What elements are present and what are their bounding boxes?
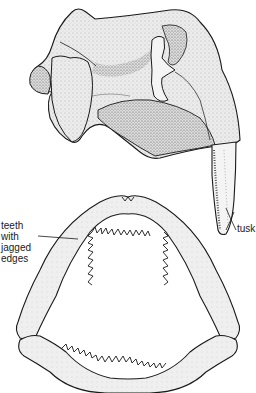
- diagram-canvas: teeth with jagged edges tusk: [0, 0, 256, 393]
- skull-group: [30, 9, 240, 158]
- teeth-label: teeth with jagged edges: [1, 220, 41, 264]
- teeth-label-line-2: with: [1, 231, 41, 242]
- tusk-group: [212, 142, 236, 235]
- upper-teeth: [88, 227, 168, 285]
- teeth-label-line-4: edges: [1, 253, 41, 264]
- teeth-label-line-1: teeth: [1, 220, 41, 231]
- tusk-label: tusk: [237, 223, 255, 234]
- teeth-label-line-3: jagged: [1, 242, 41, 253]
- lower-jaw: [19, 336, 238, 393]
- upper-jaw: [16, 196, 239, 340]
- skull-and-jaws-illustration: [0, 0, 256, 393]
